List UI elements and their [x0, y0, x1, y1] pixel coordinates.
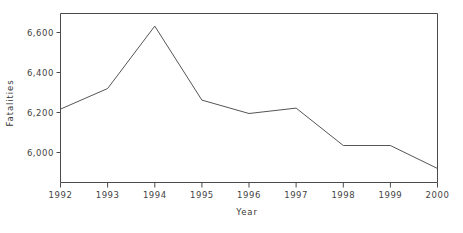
y-tick-label-6200: 6,200: [27, 108, 54, 118]
x-tick-label-1997: 1997: [284, 190, 308, 200]
chart-canvas: 6,600 6,400 6,200 6,000 1992 1993 1994 1…: [0, 0, 463, 233]
x-tick-label-1998: 1998: [331, 190, 355, 200]
x-axis-title: Year: [235, 207, 258, 217]
x-tick-label-1999: 1999: [378, 190, 402, 200]
data-line-fatalities: [61, 26, 438, 168]
x-tick-label-1994: 1994: [143, 190, 167, 200]
x-tick-label-1993: 1993: [96, 190, 120, 200]
y-tick-label-6400: 6,400: [27, 68, 54, 78]
y-axis-ticks: [57, 33, 61, 153]
line-chart-figure: 6,600 6,400 6,200 6,000 1992 1993 1994 1…: [0, 0, 463, 233]
x-axis-tick-labels: 1992 1993 1994 1995 1996 1997 1998 1999 …: [49, 190, 450, 200]
y-axis-tick-labels: 6,600 6,400 6,200 6,000: [27, 28, 54, 158]
x-tick-label-1992: 1992: [49, 190, 73, 200]
y-axis-title: Fatalities: [5, 80, 15, 127]
x-axis-ticks: [61, 183, 438, 188]
plot-frame: [61, 14, 438, 183]
x-tick-label-1996: 1996: [237, 190, 261, 200]
x-tick-label-2000: 2000: [426, 190, 450, 200]
y-tick-label-6600: 6,600: [27, 28, 54, 38]
x-tick-label-1995: 1995: [190, 190, 214, 200]
y-tick-label-6000: 6,000: [27, 148, 54, 158]
